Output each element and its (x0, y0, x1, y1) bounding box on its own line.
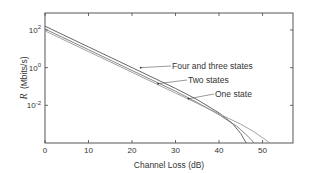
annotation-leader-line (141, 66, 171, 68)
x-tick-label: 50 (258, 146, 267, 155)
x-tick-label: 10 (84, 146, 93, 155)
annotation-arrow-tip (157, 83, 159, 85)
annotation-arrow-tip (140, 67, 142, 69)
y-tick-label: 10-2 (27, 100, 42, 111)
y-axis-ticks: 10210010-2 (27, 24, 293, 110)
curve-annotations: Four and three statesTwo statesOne state (140, 61, 253, 100)
plot-frame (45, 13, 293, 143)
annotation-label: Two states (188, 75, 229, 85)
channel-loss-rate-chart: 01020304050 10210010-2 Four and three st… (0, 0, 310, 173)
annotation-arrow-tip (188, 98, 190, 100)
x-tick-label: 30 (171, 146, 180, 155)
annotation-label: One state (215, 89, 252, 99)
x-axis-ticks: 01020304050 (43, 13, 268, 155)
y-axis-unit: (Mbits/s) (19, 56, 29, 89)
y-axis-label: R (Mbits/s) (18, 56, 29, 100)
y-axis-symbol: R (18, 93, 29, 100)
x-tick-label: 0 (43, 146, 48, 155)
x-tick-label: 40 (215, 146, 224, 155)
data-series (45, 26, 270, 143)
y-tick-label: 102 (29, 24, 42, 35)
y-tick-label: 100 (29, 62, 42, 73)
annotation-label: Four and three states (172, 61, 253, 71)
x-axis-label: Channel Loss (dB) (134, 160, 205, 170)
x-tick-label: 20 (128, 146, 137, 155)
annotation-leader-line (189, 94, 214, 99)
